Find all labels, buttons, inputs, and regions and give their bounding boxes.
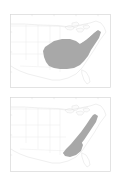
panel-frame	[10, 97, 110, 171]
florida-peninsula	[82, 70, 90, 84]
map-panel-top[interactable]	[10, 14, 111, 88]
map-panel-bottom-svg	[10, 97, 111, 172]
map-panel-top-svg	[10, 14, 111, 88]
map-panel-bottom[interactable]	[10, 97, 111, 172]
florida-peninsula	[82, 153, 90, 167]
coastline-outline	[11, 104, 106, 163]
state-borders	[11, 108, 70, 155]
distribution-map-figure	[0, 0, 120, 187]
